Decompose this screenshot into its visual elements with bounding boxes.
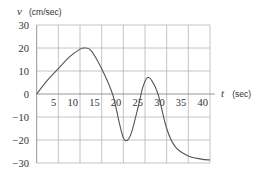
y-tick-label: 10: [19, 66, 30, 77]
y-tick-label: 20: [19, 43, 30, 54]
y-tick-label: −10: [13, 112, 29, 123]
x-tick-label: 40: [198, 97, 209, 108]
y-tick-label: −20: [13, 135, 29, 146]
x-tick-label: 10: [68, 97, 79, 108]
y-tick-label: 0: [24, 89, 29, 100]
velocity-chart: 3020100−10−20−30 510152025303540 v (cm/s…: [0, 0, 255, 176]
x-tick-label: 15: [89, 97, 100, 108]
y-axis-unit: (cm/sec): [29, 7, 62, 17]
x-axis-label: t (sec): [221, 82, 251, 101]
y-axis-var: v: [17, 5, 22, 17]
x-tick-labels: 510152025303540: [51, 97, 208, 108]
x-axis-unit: (sec): [232, 89, 251, 99]
x-tick-label: 35: [176, 97, 187, 108]
x-axis-var: t: [221, 87, 225, 99]
y-axis-label: v (cm/sec): [17, 0, 62, 19]
x-tick-label: 5: [51, 97, 56, 108]
y-tick-labels: 3020100−10−20−30: [13, 20, 29, 169]
y-tick-label: 30: [19, 20, 30, 31]
y-tick-label: −30: [13, 158, 29, 169]
